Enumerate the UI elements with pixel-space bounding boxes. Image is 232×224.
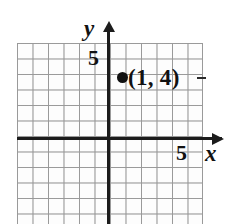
label-leader-dash xyxy=(197,77,206,79)
y-axis-label: y xyxy=(84,17,94,40)
filled-circle-icon xyxy=(117,72,128,83)
x-axis-line xyxy=(17,137,222,140)
y-axis-tick-label-5: 5 xyxy=(88,47,99,69)
x-axis-label: x xyxy=(205,142,217,165)
coordinate-plane-figure: y x 5 5 (1, 4) xyxy=(0,0,232,224)
x-axis-tick-label-5: 5 xyxy=(176,142,187,164)
arrow-up-icon xyxy=(103,21,115,32)
y-axis-line xyxy=(107,25,110,224)
point-coordinate-label: (1, 4) xyxy=(128,66,180,89)
